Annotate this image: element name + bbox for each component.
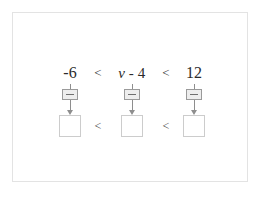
- relation-right-symbol: <: [156, 63, 176, 83]
- stepper-slot-2: [114, 84, 150, 115]
- middle-term: v - 4: [114, 63, 150, 83]
- left-bound-term: -6: [52, 63, 88, 83]
- answer-row: < <: [0, 114, 264, 138]
- plus-stepper-button-3[interactable]: [186, 89, 202, 100]
- stepper-spacer-2: [156, 84, 176, 115]
- plus-icon-3: [190, 94, 198, 95]
- stepper-row: [0, 84, 264, 115]
- answer-slot-1: [52, 115, 88, 137]
- answer-input-3[interactable]: [183, 115, 205, 137]
- stepper-slot-3: [176, 84, 212, 115]
- answer-slot-2: [114, 115, 150, 137]
- plus-icon-2: [128, 94, 136, 95]
- screenshot-canvas: -6 < v - 4 < 12: [0, 0, 264, 202]
- answer-relation-left-symbol: <: [88, 115, 108, 137]
- relation-left-symbol: <: [88, 63, 108, 83]
- inequality-problem: -6 < v - 4 < 12: [0, 0, 264, 202]
- stepper-slot-1: [52, 84, 88, 115]
- middle-term-variable: v: [118, 63, 125, 83]
- answer-input-1[interactable]: [59, 115, 81, 137]
- answer-slot-3: [176, 115, 212, 137]
- expression-row: -6 < v - 4 < 12: [0, 62, 264, 84]
- answer-relation-right-symbol: <: [156, 115, 176, 137]
- plus-icon-1: [66, 94, 74, 95]
- middle-term-constant: 4: [138, 63, 146, 83]
- stepper-spacer-1: [88, 84, 108, 115]
- plus-stepper-button-1[interactable]: [62, 89, 78, 100]
- answer-input-2[interactable]: [121, 115, 143, 137]
- plus-stepper-button-2[interactable]: [124, 89, 140, 100]
- right-bound-term: 12: [176, 63, 212, 83]
